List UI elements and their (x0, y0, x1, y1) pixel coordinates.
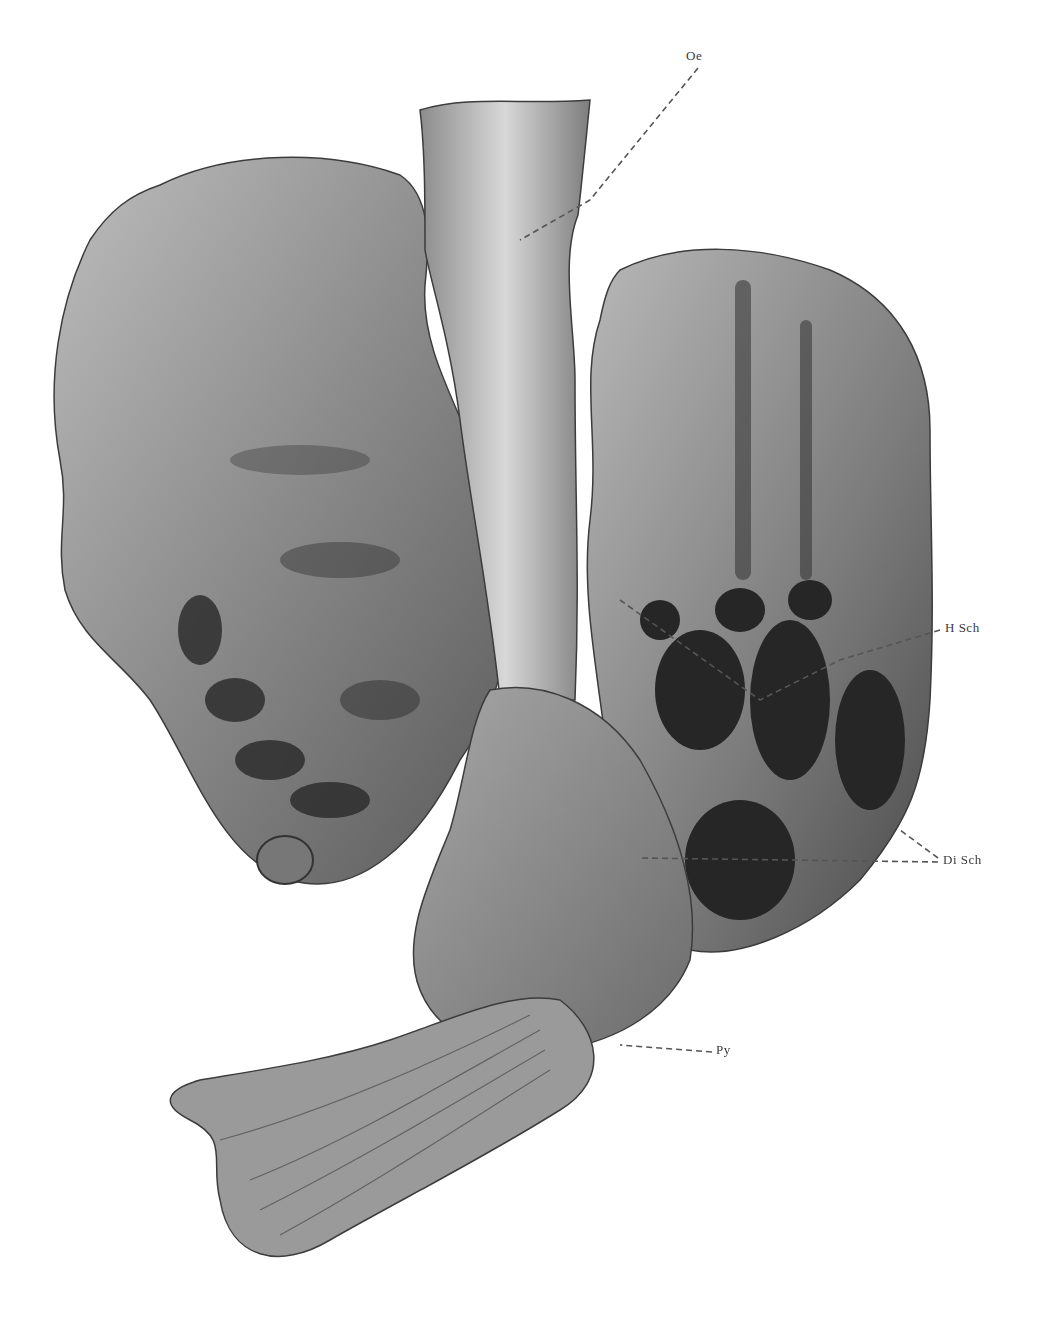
label-oe: Oe (686, 48, 702, 64)
label-h-sch: H Sch (945, 620, 980, 636)
duodenum (170, 998, 594, 1256)
label-py: Py (716, 1042, 731, 1058)
anatomical-figure: Oe H Sch Di Sch Py (0, 0, 1053, 1328)
label-di-sch: Di Sch (943, 852, 982, 868)
stomach-illustration (0, 0, 1053, 1328)
